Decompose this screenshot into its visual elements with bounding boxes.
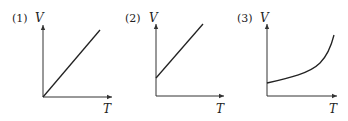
graph-2: (2) V T xyxy=(125,11,225,116)
vt-graphs-figure: (1) V T (2) V T (3) V T xyxy=(0,0,348,121)
graph-3: (3) V T xyxy=(237,11,338,116)
graph-1-x-label: T xyxy=(103,102,112,116)
graph-2-label: (2) xyxy=(125,12,141,25)
graph-2-x-label: T xyxy=(216,102,225,116)
graph-2-y-label: V xyxy=(149,11,159,25)
graph-1-line xyxy=(43,30,100,97)
graph-3-y-label: V xyxy=(260,11,270,25)
graph-2-line xyxy=(156,24,203,78)
graph-3-label: (3) xyxy=(237,12,253,25)
graph-1: (1) V T xyxy=(12,11,112,116)
graph-1-label: (1) xyxy=(12,12,28,25)
graph-3-x-label: T xyxy=(329,102,338,116)
graph-1-y-label: V xyxy=(35,11,45,25)
graph-3-curve xyxy=(267,35,334,83)
